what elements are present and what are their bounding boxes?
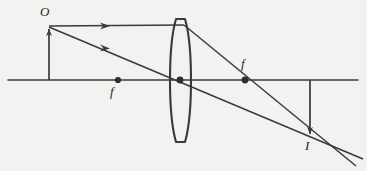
optics-ray-diagram-figure: O f f I	[0, 0, 367, 171]
focal-point-right-dot	[242, 77, 249, 84]
parallel-incident-ray	[49, 25, 184, 26]
image-label: I	[305, 139, 309, 152]
focal-point-left-label: f	[110, 85, 114, 98]
ray-diagram-canvas	[0, 0, 367, 171]
focal-point-left-dot	[115, 77, 121, 83]
focal-point-right-label: f	[241, 57, 245, 70]
center-ray	[49, 27, 363, 159]
lens-center-dot	[177, 77, 184, 84]
object-label: O	[40, 5, 49, 18]
